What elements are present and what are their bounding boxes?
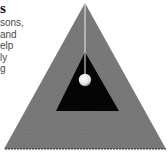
pendulum-ball	[79, 74, 91, 86]
pendulum-triangle-figure	[0, 0, 168, 154]
